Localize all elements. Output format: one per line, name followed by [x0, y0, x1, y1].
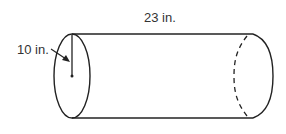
center-dot: [71, 75, 74, 78]
radius-label: 10 in.: [17, 42, 49, 57]
length-label: 23 in.: [144, 10, 176, 25]
radius-arrow-shaft: [51, 49, 66, 59]
right-base-front-arc: [253, 34, 273, 118]
cylinder-diagram: [0, 0, 286, 134]
right-base-hidden-arc: [234, 36, 247, 116]
arrow-head-icon: [62, 55, 70, 62]
